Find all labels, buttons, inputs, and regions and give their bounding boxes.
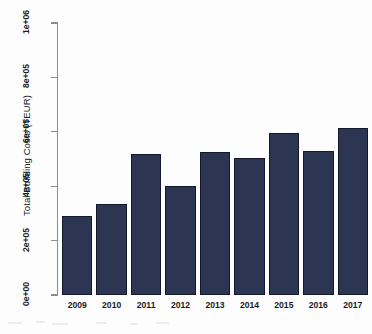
bar [200, 152, 230, 295]
bar [131, 154, 161, 295]
bar [234, 158, 264, 295]
x-axis-tick-label: 2017 [331, 300, 372, 310]
scan-artifact-marks [0, 318, 372, 334]
bar [338, 128, 368, 295]
y-axis-tick-label: 6e+05 [21, 109, 31, 153]
bar [165, 186, 195, 295]
y-axis-tick-mark [51, 240, 58, 241]
y-axis-tick-label: 0e+00 [21, 272, 31, 316]
y-axis-tick-mark [51, 186, 58, 187]
y-axis-tick-label: 2e+05 [21, 218, 31, 262]
y-axis-tick-mark [51, 131, 58, 132]
y-axis-tick-mark [51, 22, 58, 23]
bar-chart-figure: Total Building Costs (TEUR) 0e+002e+054e… [0, 0, 372, 334]
y-axis-tick-label: 4e+05 [21, 163, 31, 207]
bar [96, 204, 126, 295]
bar [269, 133, 299, 295]
y-axis-tick-label: 8e+05 [21, 54, 31, 98]
bar [62, 216, 92, 295]
bar [303, 151, 333, 295]
y-axis-tick-mark [51, 294, 58, 295]
plot-area [60, 23, 370, 295]
y-axis-tick-mark [51, 77, 58, 78]
y-axis-tick-label: 1e+06 [21, 0, 31, 44]
y-axis-line [57, 23, 58, 295]
